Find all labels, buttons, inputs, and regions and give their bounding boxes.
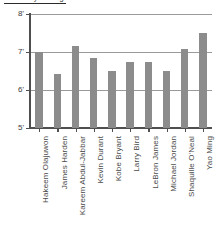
x-tick-mark xyxy=(39,128,40,132)
x-axis-category-label: Michael Jordan xyxy=(170,136,178,192)
x-axis-category-label: LeBron James xyxy=(152,136,160,189)
x-axis-category-label: Kareem Abdul-Jabbar xyxy=(79,136,87,215)
x-tick-mark xyxy=(76,128,77,132)
x-tick-mark xyxy=(94,128,95,132)
y-tick-label-6ft: 6' xyxy=(2,86,24,94)
bar xyxy=(108,71,116,128)
bar xyxy=(35,52,43,128)
x-axis-category-label: Larry Bird xyxy=(133,136,141,172)
y-tick-label-5ft: 5' xyxy=(2,124,24,132)
x-axis-category-label: Shaquille O'Neal xyxy=(188,136,196,197)
bar xyxy=(181,49,189,128)
x-axis-category-label: Kobe Bryant xyxy=(115,136,123,181)
bar-chart-figure: NBA Player Heights 5'6'7'8' Hakeem Olaju… xyxy=(0,0,217,230)
y-tick-mark-5ft xyxy=(26,128,31,129)
x-axis-category-label: Kevin Durant xyxy=(97,136,105,183)
y-tick-label-8ft: 8' xyxy=(2,10,24,18)
x-tick-mark xyxy=(148,128,149,132)
bar xyxy=(126,62,134,129)
bar xyxy=(199,33,207,128)
x-axis-category-label: Hakeem Olajuwon xyxy=(42,136,50,203)
x-tick-mark xyxy=(57,128,58,132)
y-tick-label-7ft: 7' xyxy=(2,48,24,56)
bar xyxy=(163,71,171,128)
x-axis-category-label: Yao Ming xyxy=(206,136,214,170)
bar xyxy=(90,58,98,128)
bar xyxy=(145,62,153,129)
y-axis-labels: 5'6'7'8' xyxy=(0,0,24,230)
x-tick-mark xyxy=(203,128,204,132)
bar xyxy=(54,74,62,128)
x-tick-mark xyxy=(130,128,131,132)
y-tick-mark-6ft xyxy=(26,90,31,91)
plot-area xyxy=(30,14,212,128)
bar xyxy=(72,46,80,128)
gridline-8ft xyxy=(30,14,212,15)
x-tick-mark xyxy=(167,128,168,132)
x-axis-category-label: James Harden xyxy=(61,136,69,189)
x-tick-mark xyxy=(185,128,186,132)
x-tick-mark xyxy=(112,128,113,132)
y-tick-mark-8ft xyxy=(26,14,31,15)
y-tick-mark-7ft xyxy=(26,52,31,53)
